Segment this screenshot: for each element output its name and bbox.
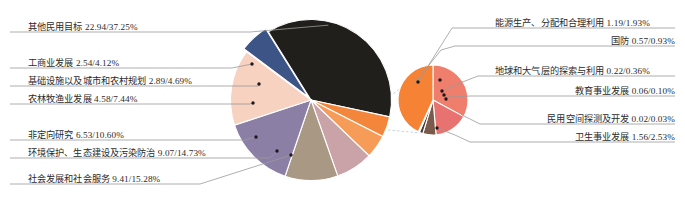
leader-dot xyxy=(254,135,257,138)
leader-dot xyxy=(442,93,445,96)
main-pie-group xyxy=(231,19,392,180)
leader-dot xyxy=(416,80,419,83)
label-health: 卫生事业发展 1.56/2.53% xyxy=(470,132,675,143)
label-industry-commerce: 工商业发展 2.54/4.12% xyxy=(28,58,119,69)
leader-dot xyxy=(444,97,447,100)
leader-dot xyxy=(435,126,438,129)
label-defense: 国防 0.57/0.93% xyxy=(470,36,675,47)
label-environment: 环境保护、生态建设及污染防治 9.07/14.73% xyxy=(28,148,206,159)
secondary-pie-slices xyxy=(398,65,468,135)
label-social-development: 社会发展和社会服务 9.41/15.28% xyxy=(28,174,160,185)
label-education: 教育事业发展 0.06/0.10% xyxy=(470,86,675,97)
leader-dot xyxy=(440,89,443,92)
leader-dot xyxy=(257,82,260,85)
leader-dot xyxy=(289,153,292,156)
label-civil-space: 民用空间探测及开发 0.02/0.03% xyxy=(470,114,675,125)
chart-canvas: 其他民用目标 22.94/37.25% 工商业发展 2.54/4.12% 基础设… xyxy=(0,0,685,200)
leader-dot xyxy=(328,23,331,26)
leader-dot xyxy=(250,62,253,65)
label-earth-atmosphere: 地球和大气层的探索与利用 0.22/0.36% xyxy=(470,66,675,77)
leader-dot xyxy=(275,149,278,152)
label-other-civil: 其他民用目标 22.94/37.25% xyxy=(28,22,138,33)
label-energy-production: 能源生产、分配和合理利用 1.19/1.93% xyxy=(470,18,675,29)
label-infrastructure-planning: 基础设施以及城市和农村规划 2.89/4.69% xyxy=(28,76,192,87)
label-agriculture: 农林牧渔业发展 4.58/7.44% xyxy=(28,94,137,105)
leader-dot xyxy=(438,78,441,81)
label-undirected-research: 非定向研究 6.53/10.60% xyxy=(28,130,124,141)
leader-dot xyxy=(251,101,254,104)
